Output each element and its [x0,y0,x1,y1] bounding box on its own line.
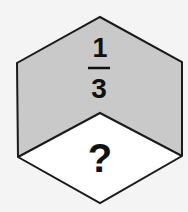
fraction-denominator: 3 [91,73,107,104]
fraction-numerator: 1 [92,33,107,63]
cube-diagram: 1 3 ? [0,0,188,212]
question-mark: ? [88,136,112,180]
